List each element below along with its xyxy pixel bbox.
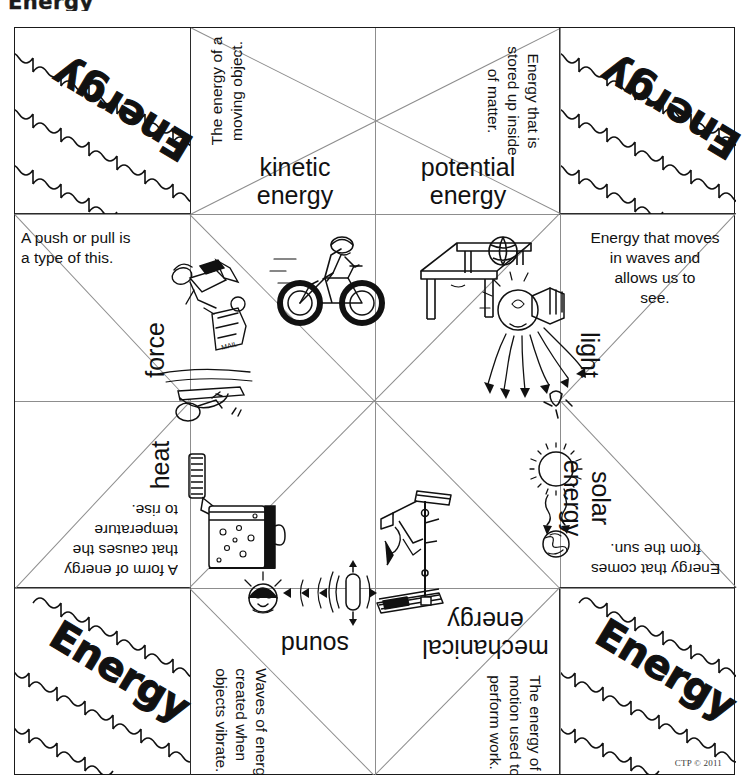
- term-potential-label: potential energy: [421, 153, 516, 209]
- term-mechanical-label: mechanical energy: [422, 607, 548, 663]
- term-sound: sound: [245, 623, 385, 659]
- corner-sep-tl-v: [190, 28, 191, 215]
- copyright-notice: CTP © 2011: [675, 758, 722, 768]
- cyclist-icon: [270, 233, 390, 328]
- term-heat-label: heat: [146, 441, 174, 490]
- clue-kinetic-text: The energy of a moving object.: [207, 37, 247, 146]
- term-sound-label: sound: [281, 631, 349, 659]
- term-kinetic: kinetic energy: [215, 153, 375, 223]
- clue-light-text: Energy that moves in waves and allows us…: [590, 228, 719, 309]
- push-pull-icon: MAIL: [160, 246, 265, 426]
- clue-sound-text: Waves of energy created when objects vib…: [211, 668, 271, 775]
- term-kinetic-label: kinetic energy: [257, 153, 333, 209]
- corner-sep-bl-v: [190, 587, 191, 775]
- pump-jack-icon: [373, 483, 463, 613]
- clue-force-text: A push or pull is a type of this.: [21, 228, 130, 268]
- clue-mechanical-text: The energy of motion used to perform wor…: [485, 675, 545, 775]
- page-header-cropped-word: Energy: [8, 0, 118, 11]
- sun-earth-icon: [510, 443, 600, 558]
- worksheet-page: Energy: [0, 0, 746, 775]
- fortune-teller-square: Energy Energy Energy: [14, 27, 735, 775]
- header-word-text: Energy: [8, 0, 118, 11]
- bell-waves-icon: [233, 558, 378, 628]
- term-potential: potential energy: [383, 153, 553, 223]
- lightbulb-rays-icon: [470, 278, 600, 423]
- clue-potential-text: Energy that is stored up inside of matte…: [483, 46, 543, 155]
